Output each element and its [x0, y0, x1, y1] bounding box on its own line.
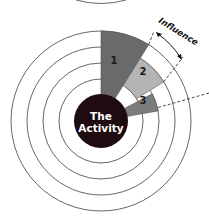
- segment-3-dash-line: [158, 93, 209, 108]
- influence-arrow: [158, 34, 180, 57]
- activity-influence-diagram: Influence 1 2 3 The Activity: [0, 0, 209, 224]
- influence-arrowhead-bottom: [177, 54, 182, 60]
- segment-2-label: 2: [140, 66, 147, 77]
- influence-label: Influence: [157, 15, 200, 47]
- segment-1-label: 1: [111, 55, 118, 66]
- influence-boundary-dash-1: [149, 31, 154, 45]
- segment-3-label: 3: [140, 95, 147, 106]
- center-label-line2: Activity: [78, 122, 123, 134]
- top-partial-arc: [76, 0, 126, 4]
- center-label-line1: The: [90, 110, 112, 122]
